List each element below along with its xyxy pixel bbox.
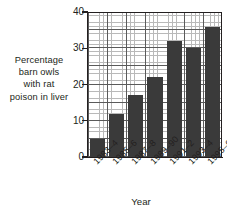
bar-chart-figure: Percentage barn owls with rat poison in … [0, 0, 227, 212]
y-tick-label: 30 [58, 43, 84, 53]
y-tick-mark [82, 84, 88, 85]
y-tick-mark [82, 120, 88, 121]
bar-series [88, 12, 222, 157]
y-tick-mark [82, 48, 88, 49]
y-axis-label-line-4: poison in liver [0, 91, 78, 103]
x-axis-title: Year [0, 196, 227, 207]
y-tick-mark [82, 11, 88, 12]
plot-area [88, 12, 222, 157]
y-axis-label-line-2: barn owls [0, 66, 78, 78]
y-tick-mark [82, 156, 88, 157]
y-tick-label: 40 [58, 7, 84, 17]
y-tick-label: 20 [58, 80, 84, 90]
y-tick-label: 10 [58, 116, 84, 126]
y-tick-label: 0 [58, 152, 84, 162]
y-axis-label-line-1: Percentage [0, 54, 78, 66]
y-axis-label: Percentage barn owls with rat poison in … [0, 54, 78, 103]
